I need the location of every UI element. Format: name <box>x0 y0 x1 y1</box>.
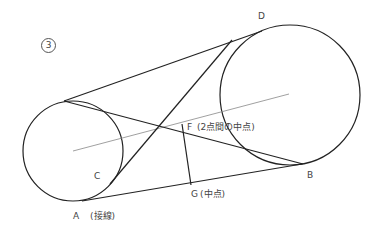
label-a: A <box>73 212 79 221</box>
figure-number-badge: 3 <box>41 38 56 53</box>
label-a-note: (接線) <box>90 212 115 221</box>
label-f: F <box>187 123 192 132</box>
label-g: G <box>191 190 198 199</box>
large-circle <box>220 25 360 165</box>
cross-tangent-2 <box>110 40 232 184</box>
label-f-note: (2点間の中点) <box>197 123 255 132</box>
tangent-diagram <box>0 0 377 231</box>
label-b: B <box>307 171 313 180</box>
label-g-note: (中点) <box>200 190 225 199</box>
label-d: D <box>258 12 265 21</box>
center-line <box>73 94 289 151</box>
label-c: C <box>94 172 100 181</box>
outer-tangent-top <box>64 31 262 101</box>
